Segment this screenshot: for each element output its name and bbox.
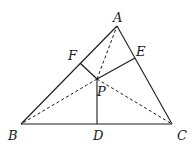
segment-pe — [97, 58, 135, 79]
segment-pf — [80, 63, 97, 79]
side-ab — [21, 26, 117, 124]
label-a: A — [112, 10, 122, 25]
dashed-segment-pa — [97, 26, 117, 79]
label-f: F — [67, 48, 78, 63]
geometry-diagram: A B C D E F P — [0, 0, 194, 149]
label-c: C — [177, 128, 187, 143]
side-ca — [117, 26, 172, 124]
dashed-segment-pc — [97, 79, 172, 124]
label-p: P — [96, 84, 106, 99]
label-e: E — [135, 44, 146, 59]
label-b: B — [7, 128, 18, 143]
label-d: D — [92, 128, 104, 143]
